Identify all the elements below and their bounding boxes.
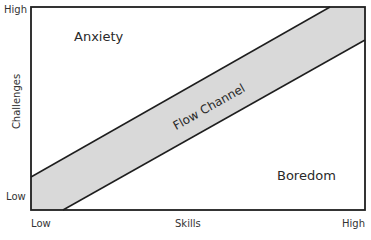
x-axis-low-label: Low [31, 218, 51, 229]
y-axis-low-label: Low [6, 191, 26, 202]
flow-lower-boundary [63, 40, 365, 210]
boredom-region-label: Boredom [277, 168, 336, 183]
x-axis-high-label: High [342, 218, 365, 229]
x-axis-title: Skills [175, 218, 201, 229]
y-axis-high-label: High [4, 4, 27, 15]
anxiety-region-label: Anxiety [74, 29, 123, 44]
y-axis-title: Challenges [11, 72, 22, 132]
